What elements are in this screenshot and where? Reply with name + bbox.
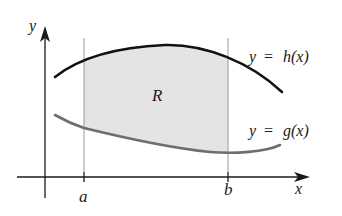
curve-h-label-equals: = xyxy=(264,48,273,65)
region-between-curves-diagram: y x a b R y = h(x) y = g(x) xyxy=(0,0,342,216)
curve-h-label-lhs: y xyxy=(247,48,257,66)
curve-g-label-lhs: y xyxy=(247,122,257,140)
region-label-r: R xyxy=(151,86,163,105)
tick-label-b: b xyxy=(224,180,233,199)
curve-g-label: y = g(x) xyxy=(247,122,309,140)
curve-h-label-rhs: h(x) xyxy=(283,48,309,66)
curve-h-label: y = h(x) xyxy=(247,48,309,66)
curve-g-label-rhs: g(x) xyxy=(283,122,309,140)
curve-g-label-equals: = xyxy=(264,122,273,139)
x-axis-label: x xyxy=(294,180,302,197)
tick-label-a: a xyxy=(79,187,88,206)
region-r-fill xyxy=(55,45,282,153)
y-axis-label: y xyxy=(27,17,37,35)
